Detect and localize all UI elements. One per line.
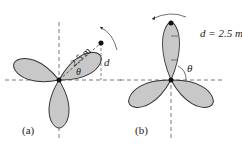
diagram-canvas bbox=[0, 0, 242, 144]
panel-label-a: (a) bbox=[22, 124, 34, 136]
d-label-a: d bbox=[104, 56, 110, 68]
angle-label-b: θ bbox=[187, 62, 192, 74]
propeller-a bbox=[10, 47, 105, 128]
panel-a bbox=[5, 22, 122, 140]
panel-label-b: (b) bbox=[135, 124, 148, 136]
propeller-diagram: 2.5 m θ d (a) d = 2.5 m θ (b) bbox=[0, 0, 242, 144]
angle-label-a: θ bbox=[76, 66, 81, 77]
distance-label-b: d = 2.5 m bbox=[200, 27, 242, 39]
